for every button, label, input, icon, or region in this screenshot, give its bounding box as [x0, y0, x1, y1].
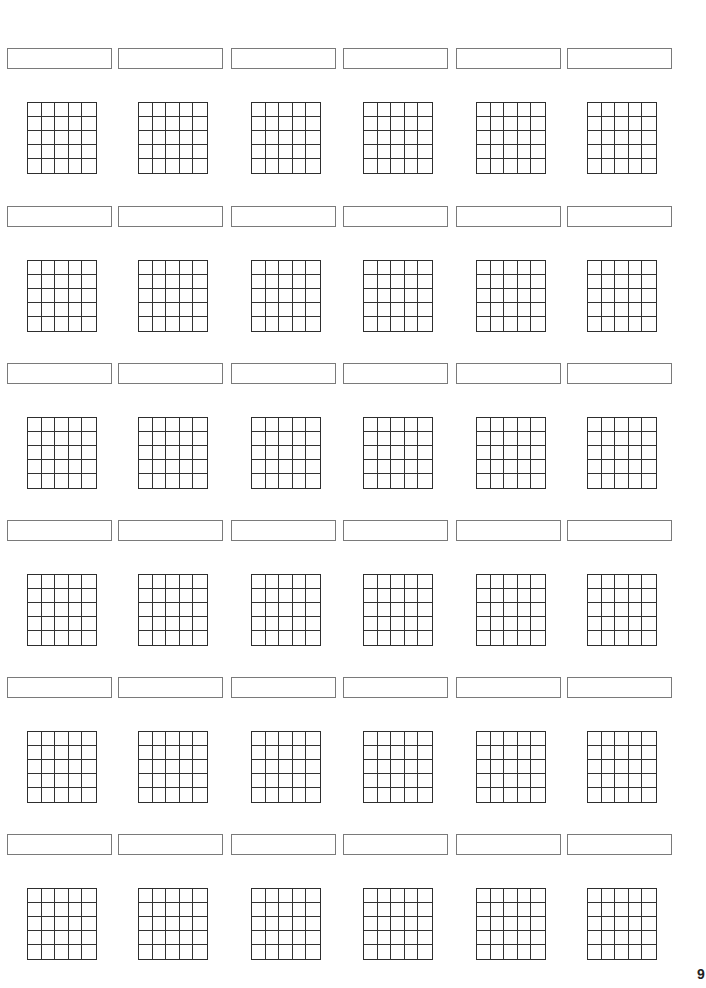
grid-square: [69, 446, 83, 460]
grid-square: [615, 603, 629, 617]
grid-square: [629, 474, 643, 488]
label-field[interactable]: [456, 520, 561, 541]
label-field[interactable]: [7, 363, 112, 384]
grid-square: [82, 261, 96, 275]
grid-square: [139, 317, 153, 331]
grid-square: [55, 460, 69, 474]
label-field[interactable]: [456, 48, 561, 69]
grid-square: [504, 474, 518, 488]
grid-square: [55, 432, 69, 446]
grid-square: [166, 631, 180, 645]
label-field[interactable]: [567, 520, 672, 541]
label-field[interactable]: [456, 363, 561, 384]
grid-square: [193, 931, 207, 945]
grid-square: [139, 889, 153, 903]
grid-square: [82, 589, 96, 603]
label-field[interactable]: [7, 206, 112, 227]
grid-square: [588, 145, 602, 159]
grid-square: [491, 631, 505, 645]
grid-square: [602, 732, 616, 746]
grid-square: [418, 159, 432, 173]
label-field[interactable]: [118, 48, 223, 69]
label-field[interactable]: [7, 48, 112, 69]
diagram-cell: [7, 834, 111, 984]
grid-square: [279, 103, 293, 117]
grid-square: [477, 603, 491, 617]
grid-square: [518, 159, 532, 173]
grid-square: [364, 760, 378, 774]
grid-square: [28, 575, 42, 589]
label-field[interactable]: [343, 520, 448, 541]
grid-square: [55, 774, 69, 788]
grid-square: [531, 746, 545, 760]
diagram-cell: [567, 206, 671, 356]
grid-square: [504, 774, 518, 788]
grid-square: [378, 631, 392, 645]
grid-square: [180, 474, 194, 488]
label-field[interactable]: [118, 520, 223, 541]
label-field[interactable]: [7, 520, 112, 541]
label-field[interactable]: [456, 206, 561, 227]
diagram-cell: [343, 363, 447, 513]
label-field[interactable]: [456, 834, 561, 855]
grid-square: [28, 460, 42, 474]
label-field[interactable]: [118, 206, 223, 227]
label-field[interactable]: [567, 206, 672, 227]
label-field[interactable]: [231, 206, 336, 227]
label-field[interactable]: [456, 677, 561, 698]
grid-square: [69, 474, 83, 488]
label-field[interactable]: [567, 48, 672, 69]
grid-square: [42, 589, 56, 603]
grid-square: [588, 917, 602, 931]
label-field[interactable]: [343, 206, 448, 227]
grid-square: [391, 145, 405, 159]
label-field[interactable]: [231, 48, 336, 69]
label-field[interactable]: [231, 520, 336, 541]
label-field[interactable]: [7, 834, 112, 855]
grid-square: [642, 303, 656, 317]
label-field[interactable]: [343, 48, 448, 69]
grid-square: [364, 917, 378, 931]
grid-square: [588, 275, 602, 289]
grid-square: [180, 303, 194, 317]
grid-square: [82, 317, 96, 331]
grid-square: [266, 446, 280, 460]
grid-square: [42, 746, 56, 760]
label-field[interactable]: [118, 363, 223, 384]
grid-square: [477, 917, 491, 931]
grid-square: [55, 145, 69, 159]
grid-square: [252, 589, 266, 603]
label-field[interactable]: [567, 363, 672, 384]
grid-square: [139, 418, 153, 432]
grid-square: [602, 303, 616, 317]
label-field[interactable]: [343, 677, 448, 698]
label-field[interactable]: [567, 677, 672, 698]
grid-square: [42, 631, 56, 645]
grid-square: [615, 760, 629, 774]
grid-square: [293, 945, 307, 959]
label-field[interactable]: [231, 363, 336, 384]
grid-square: [615, 418, 629, 432]
label-field[interactable]: [118, 677, 223, 698]
label-field[interactable]: [231, 677, 336, 698]
grid-square: [42, 575, 56, 589]
label-field[interactable]: [343, 363, 448, 384]
grid-square: [193, 589, 207, 603]
label-field[interactable]: [343, 834, 448, 855]
grid-square: [378, 575, 392, 589]
label-field[interactable]: [7, 677, 112, 698]
grid-square: [180, 903, 194, 917]
label-field[interactable]: [231, 834, 336, 855]
grid-square: [193, 903, 207, 917]
grid-square: [602, 603, 616, 617]
grid-square: [504, 131, 518, 145]
grid-square: [405, 617, 419, 631]
grid-square: [364, 303, 378, 317]
label-field[interactable]: [118, 834, 223, 855]
grid-square: [279, 446, 293, 460]
grid-square: [42, 732, 56, 746]
grid-square: [266, 760, 280, 774]
label-field[interactable]: [567, 834, 672, 855]
grid-square: [166, 117, 180, 131]
grid-square: [531, 131, 545, 145]
